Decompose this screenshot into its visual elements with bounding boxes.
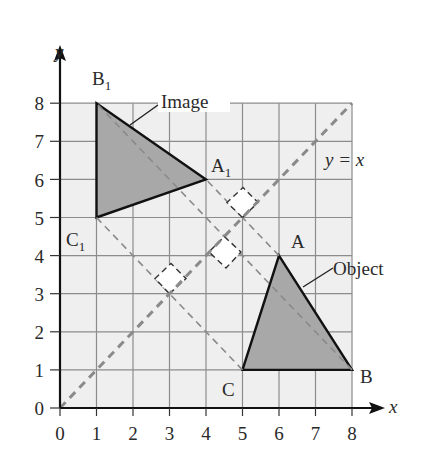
mirror-line-label: y = x [323, 149, 365, 170]
x-tick-label: 7 [311, 423, 321, 444]
x-tick-label: 8 [347, 423, 357, 444]
y-tick-label: 7 [35, 131, 45, 152]
vertex-label-b1-sub: 1 [105, 78, 112, 93]
vertex-label-c1-sub: 1 [79, 239, 86, 254]
x-tick-label: 6 [274, 423, 284, 444]
y-tick-label: 3 [35, 284, 45, 305]
reflection-diagram: 0 1 2 3 4 5 6 7 8 0 1 2 3 4 5 6 7 8 x y … [0, 0, 422, 465]
vertex-label-c1-letter: C [66, 229, 79, 250]
y-tick-label: 8 [35, 93, 45, 114]
y-tick-label: 6 [35, 170, 45, 191]
y-tick-label: 1 [35, 360, 45, 381]
x-tick-label: 1 [92, 423, 102, 444]
vertex-label-a1-letter: A [211, 155, 225, 176]
vertex-label-b1: B1 [92, 68, 111, 93]
x-tick-label: 0 [55, 423, 65, 444]
y-tick-label: 2 [35, 322, 45, 343]
object-callout-label: Object [333, 258, 384, 279]
vertex-label-c: C [222, 379, 235, 400]
vertex-label-a: A [291, 231, 305, 252]
vertex-label-a1-sub: 1 [225, 165, 232, 180]
x-tick-label: 3 [165, 423, 175, 444]
vertex-label-b: B [360, 366, 373, 387]
y-tick-label: 0 [35, 398, 45, 419]
vertex-label-b1-letter: B [92, 68, 105, 89]
x-tick-label: 4 [201, 423, 211, 444]
x-tick-label: 2 [128, 423, 138, 444]
x-tick-labels: 0 1 2 3 4 5 6 7 8 [55, 423, 357, 444]
image-callout-label: Image [161, 91, 208, 112]
y-axis-label: y [53, 41, 64, 62]
x-tick-label: 5 [238, 423, 248, 444]
y-tick-label: 4 [35, 246, 45, 267]
y-tick-labels: 0 1 2 3 4 5 6 7 8 [35, 93, 45, 419]
y-tick-label: 5 [35, 208, 45, 229]
x-axis-label: x [388, 396, 398, 417]
